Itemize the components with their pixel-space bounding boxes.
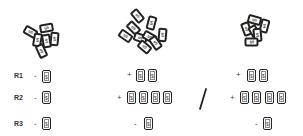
plus-sign: + [230,94,235,102]
minus-sign: - [34,94,37,102]
dollar-card-icon: $ [136,69,145,82]
minus-sign: - [255,120,258,128]
dollar-card-icon: $ [139,91,148,104]
dollar-card-icon: $ [259,69,268,82]
plus-sign: + [117,94,122,102]
pile-card: $ [145,15,157,31]
row-label-r1: R1 [14,72,23,79]
dollar-card-icon: $ [265,91,274,104]
dollar-card-icon: $ [151,91,160,104]
card-pile-left: $ $ $ $ $ $ [20,18,80,73]
dollar-card-icon: $ [163,91,172,104]
pile-card: $ [245,38,259,47]
card-pile-right: $ $ $ $ $ $ [236,10,296,65]
minus-sign: - [134,120,137,128]
dollar-card-icon: $ [42,117,51,130]
card-pile-middle: $ $ $ $ $ $ $ $ $ [116,4,176,59]
dollar-card-icon: $ [240,91,249,104]
dollar-card-icon: $ [263,117,272,130]
dollar-card-icon: $ [127,91,136,104]
minus-sign: - [34,120,37,128]
minus-sign: - [34,72,37,80]
plus-sign: + [236,71,241,79]
dollar-card-icon: $ [42,91,51,104]
dollar-card-icon: $ [144,117,153,130]
dollar-card-icon: $ [148,69,157,82]
row-label-r3: R3 [14,120,23,127]
dollar-card-icon: $ [42,70,51,83]
row-label-r2: R2 [14,94,23,101]
dollar-card-icon: $ [277,91,286,104]
slash-separator [199,88,207,110]
plus-sign: + [127,71,132,79]
pile-card: $ [49,32,59,47]
dollar-card-icon: $ [247,69,256,82]
dollar-card-icon: $ [252,91,261,104]
